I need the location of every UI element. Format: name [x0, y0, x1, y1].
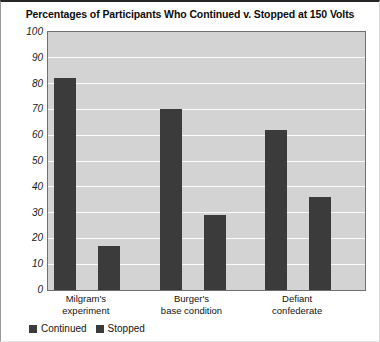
legend-item-continued: Continued: [29, 324, 87, 334]
bar-stopped-0: [98, 246, 120, 290]
x-tick-label-line: confederate: [272, 305, 322, 317]
bar-continued-2: [265, 130, 287, 290]
y-tick-label: 90: [1, 53, 43, 63]
gridline: [48, 186, 365, 187]
y-tick-label: 0: [1, 285, 43, 295]
bar-continued-1: [160, 109, 182, 290]
x-axis: Milgram'sexperimentBurger'sbase conditio…: [47, 293, 366, 323]
x-tick-label-group-0: Milgram'sexperiment: [62, 293, 109, 317]
y-axis: 1009080706050403020100: [1, 31, 43, 291]
y-tick-label: 40: [1, 182, 43, 192]
legend-swatch-icon: [96, 325, 104, 333]
y-tick-label: 70: [1, 104, 43, 114]
x-tick-label-group-1: Burger'sbase condition: [161, 293, 222, 317]
plot-area: [48, 32, 365, 290]
legend-label: Continued: [41, 324, 87, 334]
x-tick-label-line: Milgram's: [62, 293, 109, 305]
y-tick-label: 50: [1, 156, 43, 166]
bar-stopped-2: [309, 197, 331, 290]
x-tick-label-line: Defiant: [272, 293, 322, 305]
gridline: [48, 109, 365, 110]
x-tick-label-line: experiment: [62, 305, 109, 317]
y-tick-label: 10: [1, 259, 43, 269]
gridline: [48, 57, 365, 58]
x-tick-label-group-2: Defiantconfederate: [272, 293, 322, 317]
bar-stopped-1: [204, 215, 226, 290]
legend-label: Stopped: [108, 324, 145, 334]
gridline: [48, 83, 365, 84]
page-title: Percentages of Participants Who Continue…: [1, 8, 379, 20]
bar-continued-0: [54, 78, 76, 290]
y-tick-label: 30: [1, 208, 43, 218]
chart-page: Percentages of Participants Who Continue…: [0, 0, 380, 342]
gridline: [48, 161, 365, 162]
legend-swatch-icon: [29, 325, 37, 333]
plot-frame: [47, 31, 366, 291]
y-tick-label: 20: [1, 233, 43, 243]
gridline: [48, 135, 365, 136]
x-tick-label-line: Burger's: [161, 293, 222, 305]
y-tick-label: 60: [1, 130, 43, 140]
x-tick-label-line: base condition: [161, 305, 222, 317]
y-tick-label: 100: [1, 27, 43, 37]
chart-legend: ContinuedStopped: [29, 324, 145, 334]
legend-item-stopped: Stopped: [96, 324, 145, 334]
y-tick-label: 80: [1, 79, 43, 89]
